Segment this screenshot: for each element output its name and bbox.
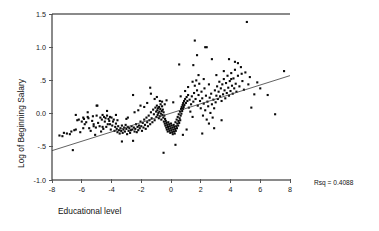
data-point: [170, 127, 172, 129]
data-point: [141, 130, 143, 132]
data-point: [220, 87, 222, 89]
data-point: [200, 107, 202, 109]
data-point: [189, 99, 191, 101]
data-point: [150, 93, 152, 95]
data-point: [126, 133, 128, 135]
data-point: [201, 132, 203, 134]
data-point: [256, 81, 258, 83]
data-point: [79, 131, 81, 133]
data-point: [161, 101, 163, 103]
data-point: [213, 127, 215, 129]
data-point: [106, 115, 108, 117]
y-axis-ticks: -1.0-.50.0.51.01.5: [34, 10, 53, 185]
data-point: [61, 135, 63, 137]
y-tick-label: 1.5: [36, 10, 46, 19]
data-point: [124, 130, 126, 132]
data-point: [226, 92, 228, 94]
data-point: [221, 100, 223, 102]
data-point: [93, 125, 95, 127]
data-point: [167, 126, 169, 128]
data-point: [163, 152, 165, 154]
data-point: [178, 63, 180, 65]
data-point: [96, 105, 98, 107]
data-point: [87, 117, 89, 119]
y-axis-title: Log of Beginning Salary: [16, 78, 26, 168]
data-point: [184, 90, 186, 92]
data-point: [224, 97, 226, 99]
data-point: [165, 99, 167, 101]
data-point: [169, 132, 171, 134]
data-point: [186, 96, 188, 98]
data-point: [180, 95, 182, 97]
data-point: [99, 117, 101, 119]
data-point: [172, 101, 174, 103]
data-point: [170, 129, 172, 131]
data-point: [159, 100, 161, 102]
data-point: [192, 116, 194, 118]
data-point: [201, 97, 203, 99]
data-points-group: [58, 21, 285, 154]
data-point: [164, 103, 166, 105]
chart-canvas: -1.0-.50.0.51.01.5 -8-6-4-202468 Educati…: [0, 0, 379, 231]
data-point: [112, 121, 114, 123]
data-point: [115, 123, 117, 125]
data-point: [199, 100, 201, 102]
data-point: [193, 92, 195, 94]
data-point: [259, 87, 261, 89]
data-point: [208, 83, 210, 85]
data-point: [110, 117, 112, 119]
data-point: [234, 69, 236, 71]
y-tick-label: -1.0: [34, 176, 46, 185]
data-point: [215, 74, 217, 76]
data-point: [166, 128, 168, 130]
data-point: [106, 110, 108, 112]
data-point: [186, 100, 188, 102]
y-tick-label: 0.0: [36, 109, 46, 118]
data-point: [114, 126, 116, 128]
data-point: [214, 89, 216, 91]
x-tick-label: 2: [199, 185, 203, 194]
data-point: [237, 75, 239, 77]
data-point: [128, 127, 130, 129]
data-point: [187, 86, 189, 88]
data-point: [178, 113, 180, 115]
data-point: [63, 132, 65, 134]
data-point: [143, 119, 145, 121]
data-point: [218, 91, 220, 93]
data-point: [84, 123, 86, 125]
data-point: [144, 124, 146, 126]
data-point: [212, 117, 214, 119]
data-point: [203, 78, 205, 80]
data-point: [120, 130, 122, 132]
data-point: [160, 119, 162, 121]
x-tick-label: 6: [258, 185, 262, 194]
data-point: [136, 131, 138, 133]
data-point: [209, 112, 211, 114]
data-point: [230, 78, 232, 80]
data-point: [121, 140, 123, 142]
data-point: [125, 118, 127, 120]
x-tick-label: -4: [108, 185, 114, 194]
data-point: [104, 121, 106, 123]
data-point: [111, 125, 113, 127]
data-point: [211, 58, 213, 60]
data-point: [173, 130, 175, 132]
data-point: [166, 124, 168, 126]
data-point: [105, 126, 107, 128]
data-point: [180, 113, 182, 115]
data-point: [128, 130, 130, 132]
data-point: [182, 102, 184, 104]
data-point: [138, 125, 140, 127]
data-point: [223, 78, 225, 80]
data-point: [231, 85, 233, 87]
data-point: [215, 95, 217, 97]
data-point: [196, 89, 198, 91]
data-point: [161, 105, 163, 107]
data-point: [210, 93, 212, 95]
data-point: [241, 73, 243, 75]
data-point: [116, 119, 118, 121]
data-point: [194, 40, 196, 42]
data-point: [99, 125, 101, 127]
data-point: [179, 119, 181, 121]
data-point: [172, 128, 174, 130]
